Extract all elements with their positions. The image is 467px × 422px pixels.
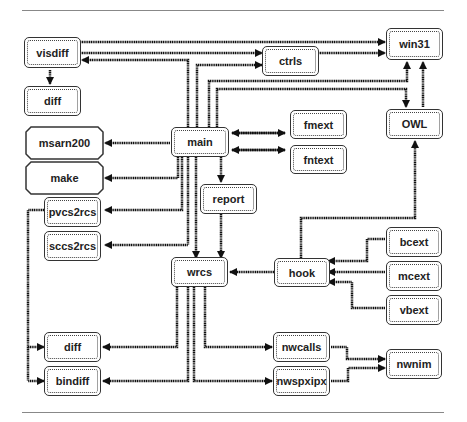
edge-main-ctrls xyxy=(197,65,262,127)
edge-nwspxipx-nwnim xyxy=(331,368,385,381)
node-label: wrcs xyxy=(187,266,212,278)
node-visdiff[interactable]: visdiff xyxy=(24,37,81,68)
node-pvcs2rcs[interactable]: pvcs2rcs xyxy=(44,197,101,227)
node-label: ctrls xyxy=(279,55,302,67)
edge-pvcs2rcs-diff xyxy=(28,210,44,347)
node-msarn200[interactable]: msarn200 xyxy=(26,127,103,159)
node-win31[interactable]: win31 xyxy=(386,28,443,60)
node-label: vbext xyxy=(400,304,429,316)
node-label: fntext xyxy=(304,154,334,166)
node-fmext[interactable]: fmext xyxy=(290,110,347,139)
node-label: report xyxy=(213,193,245,205)
edge-main-visdiff xyxy=(82,60,188,127)
edge-main-sccs2rcs xyxy=(105,157,188,245)
edge-main-pvcs2rcs xyxy=(105,157,182,210)
edge-wrcs-bindiff xyxy=(103,287,188,381)
node-label: pvcs2rcs xyxy=(49,206,97,218)
node-wrcs[interactable]: wrcs xyxy=(171,257,228,287)
node-nwnim[interactable]: nwnim xyxy=(386,349,442,379)
node-sccs2rcs[interactable]: sccs2rcs xyxy=(44,231,101,261)
node-label: diff xyxy=(64,341,81,353)
node-diff-top[interactable]: diff xyxy=(24,86,81,116)
node-owl[interactable]: OWL xyxy=(386,109,443,139)
node-make[interactable]: make xyxy=(26,162,103,194)
node-fntext[interactable]: fntext xyxy=(290,145,347,174)
node-label: mcext xyxy=(398,270,430,282)
node-main[interactable]: main xyxy=(171,127,229,157)
node-label: bcext xyxy=(400,236,429,248)
edge-main-make xyxy=(105,157,178,178)
edge-wrcs-nwcalls xyxy=(205,287,272,347)
node-bcext[interactable]: bcext xyxy=(386,227,442,257)
node-diff-bottom[interactable]: diff xyxy=(44,332,101,362)
edge-bcext-hook xyxy=(328,239,385,261)
node-hook[interactable]: hook xyxy=(274,258,330,287)
node-mcext[interactable]: mcext xyxy=(386,261,442,291)
node-label: sccs2rcs xyxy=(49,240,96,252)
node-label: hook xyxy=(289,267,315,279)
node-label: OWL xyxy=(402,118,428,130)
node-label: win31 xyxy=(399,38,430,50)
node-report[interactable]: report xyxy=(200,184,257,214)
node-label: fmext xyxy=(304,119,333,131)
node-vbext[interactable]: vbext xyxy=(386,295,442,325)
edge-vbext-hook xyxy=(328,282,385,308)
node-label: nwspxipx xyxy=(276,375,326,387)
edge-nwcalls-nwnim xyxy=(331,347,385,359)
node-label: make xyxy=(50,172,78,184)
node-label: visdiff xyxy=(36,47,68,59)
node-label: nwnim xyxy=(397,358,432,370)
node-label: msarn200 xyxy=(39,137,90,149)
node-label: main xyxy=(187,136,213,148)
node-nwcalls[interactable]: nwcalls xyxy=(273,332,330,362)
node-label: diff xyxy=(44,95,61,107)
node-bindiff[interactable]: bindiff xyxy=(44,366,101,396)
node-label: bindiff xyxy=(56,375,90,387)
node-nwspxipx[interactable]: nwspxipx xyxy=(273,366,330,396)
edge-pvcs2rcs-bindiff xyxy=(28,347,44,381)
node-label: nwcalls xyxy=(282,341,322,353)
node-ctrls[interactable]: ctrls xyxy=(262,46,319,76)
edge-wrcs-diff xyxy=(103,287,177,347)
